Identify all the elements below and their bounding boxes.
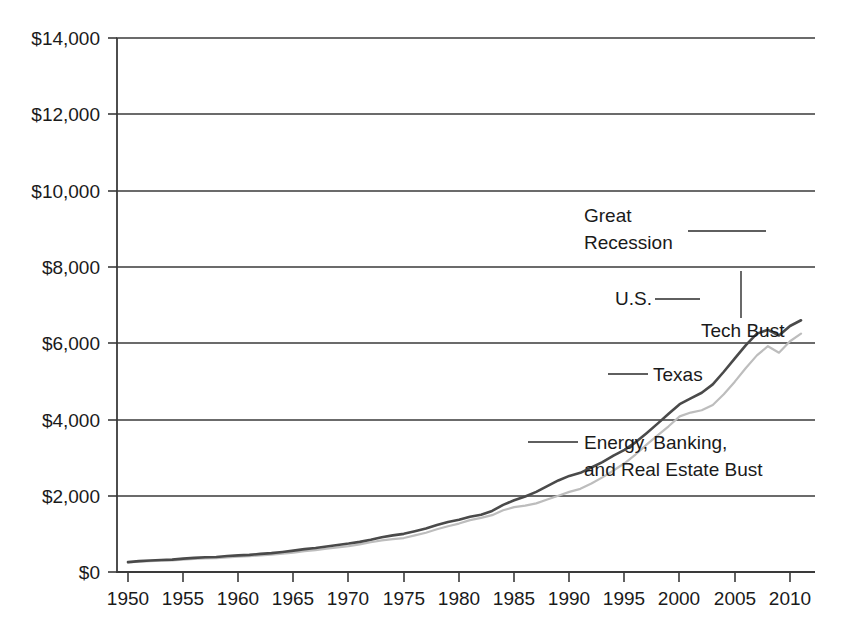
x-tick-label-2005: 2005 xyxy=(714,588,756,609)
annotation-tech-bust-text: Tech Bust xyxy=(701,320,785,341)
x-tick-label-1955: 1955 xyxy=(162,588,204,609)
x-tick-label-1985: 1985 xyxy=(493,588,535,609)
x-tick-label-1965: 1965 xyxy=(272,588,314,609)
y-tick-label-2000: $2,000 xyxy=(42,486,100,507)
line-chart-svg: $14,000 $12,000 $10,000 $8,000 $6,000 $4… xyxy=(0,0,851,639)
y-tick-label-8000: $8,000 xyxy=(42,257,100,278)
y-tick-label-14000: $14,000 xyxy=(31,28,100,49)
chart-figure: $14,000 $12,000 $10,000 $8,000 $6,000 $4… xyxy=(0,0,851,639)
annotation-us-label-text: U.S. xyxy=(615,288,652,309)
y-tick-label-12000: $12,000 xyxy=(31,104,100,125)
x-tick-label-2010: 2010 xyxy=(769,588,811,609)
x-tick-label-1960: 1960 xyxy=(217,588,259,609)
x-tick-label-1970: 1970 xyxy=(327,588,369,609)
y-tick-label-6000: $6,000 xyxy=(42,333,100,354)
annotation-energy-banking-bust-line1: Energy, Banking, xyxy=(584,432,727,453)
y-tick-label-0: $0 xyxy=(79,562,100,583)
x-tick-label-1980: 1980 xyxy=(438,588,480,609)
x-tick-label-2000: 2000 xyxy=(658,588,700,609)
y-tick-label-4000: $4,000 xyxy=(42,410,100,431)
annotation-great-recession-line2: Recession xyxy=(584,232,673,253)
annotation-energy-banking-bust-line2: and Real Estate Bust xyxy=(584,459,763,480)
x-tick-label-1975: 1975 xyxy=(383,588,425,609)
annotation-great-recession-line1: Great xyxy=(584,205,632,226)
x-tick-label-1950: 1950 xyxy=(107,588,149,609)
x-tick-label-1990: 1990 xyxy=(548,588,590,609)
x-tick-label-1995: 1995 xyxy=(603,588,645,609)
annotation-texas-label-text: Texas xyxy=(653,364,703,385)
y-tick-label-10000: $10,000 xyxy=(31,181,100,202)
